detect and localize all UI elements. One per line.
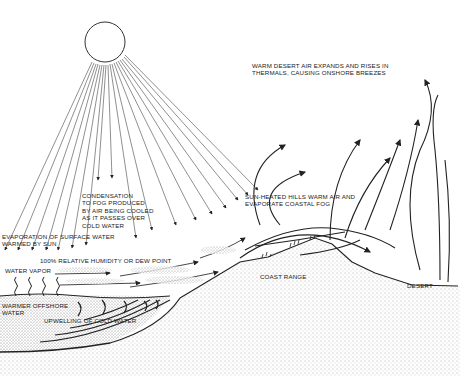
label-warmer-offshore: WARMER OFFSHORE WATER: [2, 302, 68, 317]
label-humidity: 100% RELATIVE HUMIDITY OR DEW POINT: [40, 257, 172, 264]
label-coast-range: COAST RANGE: [260, 273, 307, 280]
fog-diagram: WARM DESERT AIR EXPANDS AND RISES IN THE…: [0, 0, 460, 376]
label-desert-air: WARM DESERT AIR EXPANDS AND RISES IN THE…: [252, 62, 389, 77]
sun-icon: [85, 22, 125, 62]
label-water-vapor: WATER VAPOR: [5, 267, 51, 274]
label-sun-heated-hills: SUN-HEATED HILLS WARM AIR AND EVAPORATE …: [245, 193, 355, 208]
label-upwelling: UPWELLING OF COLD WATER: [44, 317, 137, 324]
water-vapor-icon: [15, 277, 60, 296]
label-evaporation: EVAPORATION OF SURFACE WATER WARMED BY S…: [2, 233, 115, 248]
label-desert: DESERT: [407, 282, 433, 289]
label-condensation: CONDENSATION TO FOG PRODUCED BY AIR BEIN…: [82, 192, 154, 229]
